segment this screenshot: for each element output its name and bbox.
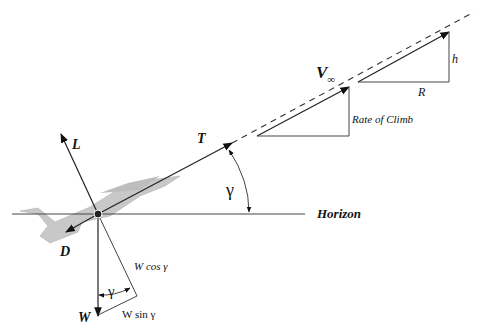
drag-label: D xyxy=(59,244,70,259)
range-label: R xyxy=(417,85,426,99)
velocity-triangle xyxy=(257,87,349,136)
distance-triangle xyxy=(358,32,449,82)
w-sin-label: W sin γ xyxy=(122,308,156,320)
thrust-label: T xyxy=(197,131,207,146)
center-of-gravity xyxy=(94,210,102,218)
thrust-vector xyxy=(98,143,232,214)
w-cos-component xyxy=(98,214,137,296)
rate-of-climb-label: Rate of Climb xyxy=(351,113,414,125)
climb-angle-label: γ xyxy=(225,180,234,200)
height-label: h xyxy=(452,52,458,66)
climb-force-diagram: Horizon T D L W W cos γ W sin γ γ γ V∞ R… xyxy=(0,0,482,332)
w-cos-label: W cos γ xyxy=(134,260,168,272)
aircraft-silhouette xyxy=(20,176,180,243)
velocity-label: V∞ xyxy=(316,63,335,85)
weight-label: W xyxy=(78,310,92,325)
weight-angle-label: γ xyxy=(107,283,115,299)
horizon-label: Horizon xyxy=(316,206,361,221)
lift-label: L xyxy=(71,137,81,152)
